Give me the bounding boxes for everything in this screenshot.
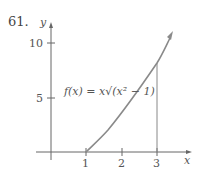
function-graph: y 10 5 1 2 3 x f(x) = x√(x² − 1): [0, 0, 200, 184]
x-axis-label: x: [184, 154, 191, 167]
x-tick-label-2: 2: [118, 157, 125, 170]
function-label: f(x) = x√(x² − 1): [63, 85, 155, 98]
y-axis-arrow-icon: [49, 22, 53, 28]
curve-arrow-icon: [167, 31, 173, 40]
y-tick-label-5: 5: [36, 92, 43, 105]
y-axis-label: y: [39, 16, 47, 29]
problem-number: 61.: [8, 14, 29, 29]
x-tick-label-3: 3: [153, 157, 160, 170]
y-tick-label-10: 10: [29, 37, 43, 50]
x-tick-label-1: 1: [82, 157, 89, 170]
figure: 61. y 10 5 1 2 3 x f(x) = x√(x² −: [0, 0, 200, 184]
